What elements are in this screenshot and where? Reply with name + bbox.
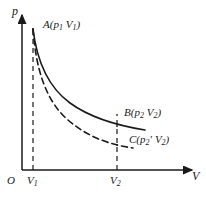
point-b-v-base: V	[147, 106, 154, 118]
x-axis-label: V	[192, 170, 199, 182]
x-tick-v2-base: V	[110, 174, 117, 186]
point-b-marker	[116, 125, 118, 127]
figure-canvas	[0, 0, 206, 199]
x-tick-v1-base: V	[27, 174, 34, 186]
adiabatic-curve	[33, 29, 133, 148]
point-label-a: A(p1V1)	[43, 19, 80, 32]
point-b-p-sub: 2	[140, 111, 144, 120]
point-a-name: A	[43, 18, 50, 30]
point-label-b: B(p2V2)	[124, 107, 161, 120]
point-a-marker	[32, 28, 34, 30]
point-c-p-prime: ′	[149, 133, 151, 145]
point-c-v-base: V	[155, 133, 162, 145]
point-a-close-paren: )	[77, 18, 81, 30]
point-label-c: C(p2′V2)	[129, 134, 169, 147]
origin-label: O	[7, 175, 15, 186]
point-a-p-sub: 1	[59, 23, 63, 32]
point-c-marker	[116, 144, 118, 146]
x-tick-v2-sub: 2	[117, 179, 121, 188]
y-axis-label: p	[12, 5, 18, 17]
point-a-v-base: V	[66, 18, 73, 30]
point-b-close-paren: )	[158, 106, 162, 118]
point-b-name: B	[124, 106, 131, 118]
point-c-close-paren: )	[166, 133, 170, 145]
pv-diagram-figure: p V O V1 V2 A(p1V1) B(p2V2) C(p2′V2)	[0, 0, 206, 199]
x-tick-label-v1: V1	[27, 175, 38, 188]
x-tick-v1-sub: 1	[34, 179, 38, 188]
x-tick-label-v2: V2	[110, 175, 121, 188]
